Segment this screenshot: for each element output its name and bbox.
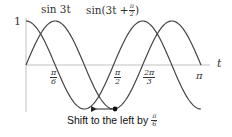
- x-tick-pi-over-6: π 6: [50, 69, 57, 86]
- frac-den: 2: [115, 78, 120, 86]
- x-tick-pi-over-2: π 2: [114, 69, 121, 86]
- legend-shifted-prefix: sin(3t +: [86, 4, 129, 16]
- x-tick-2pi-over-3: 2π 3: [143, 69, 155, 86]
- frac-den: 3: [147, 78, 152, 86]
- x-tick-pi: π: [196, 70, 203, 81]
- frac-den: 6: [51, 78, 56, 86]
- frac-den: 6: [152, 121, 156, 128]
- minimum-point-marker: [113, 107, 118, 112]
- frac-den: 2: [130, 11, 134, 18]
- legend-sin-3t: sin 3t: [41, 3, 71, 15]
- shift-caption: Shift to the left by π 6: [67, 113, 157, 127]
- x-axis-label: t: [217, 57, 221, 70]
- legend-shifted-suffix: ): [135, 4, 139, 16]
- caption-fraction: π 6: [151, 113, 157, 127]
- caption-text: Shift to the left by: [67, 114, 148, 126]
- legend-sin-3t-shifted: sin(3t + π 2 ): [86, 3, 139, 17]
- y-tick-one: 1: [14, 15, 21, 28]
